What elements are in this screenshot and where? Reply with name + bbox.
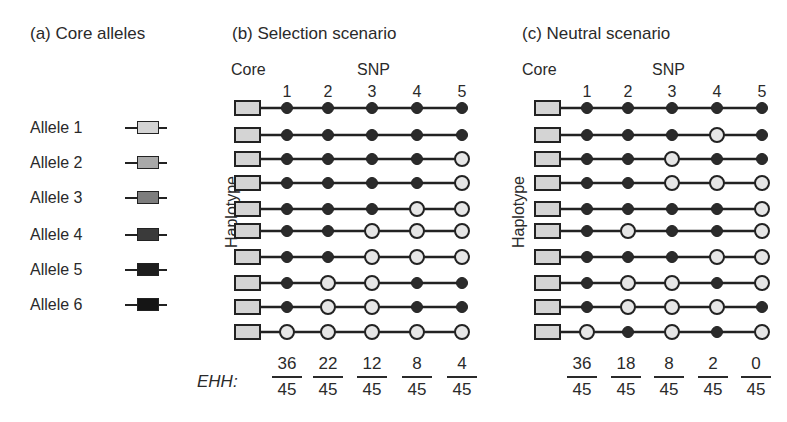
snp-ancestral-allele-icon <box>365 325 379 339</box>
snp-derived-allele-icon <box>582 204 593 215</box>
snp-ancestral-allele-icon <box>755 250 769 264</box>
snp-derived-allele-icon <box>367 130 378 141</box>
ehh-denominator: 45 <box>355 380 389 400</box>
core-allele-box <box>235 224 260 238</box>
snp-derived-allele-icon <box>282 178 293 189</box>
core-allele-box <box>535 202 560 216</box>
snp-derived-allele-icon <box>667 252 678 263</box>
snp-derived-allele-icon <box>457 278 468 289</box>
snp-ancestral-allele-icon <box>365 300 379 314</box>
haplotype-row <box>235 250 469 264</box>
ehh-numerator: 36 <box>565 354 599 374</box>
snp-derived-allele-icon <box>323 154 334 165</box>
ehh-denominator: 45 <box>270 380 304 400</box>
allele-symbol-icon <box>125 263 167 277</box>
panel-b-core-label: Core <box>231 61 266 79</box>
core-allele-box <box>535 176 560 190</box>
snp-derived-allele-icon <box>623 204 634 215</box>
ehh-numerator: 22 <box>311 354 345 374</box>
snp-ancestral-allele-icon <box>321 325 335 339</box>
core-allele-box <box>535 276 560 290</box>
fraction-bar <box>567 376 597 378</box>
snp-derived-allele-icon <box>582 302 593 313</box>
allele-legend-item: Allele 4 <box>30 225 167 245</box>
snp-ancestral-allele-icon <box>755 325 769 339</box>
panel-c-core-label: Core <box>522 61 557 79</box>
ehh-fraction: 045 <box>739 354 773 400</box>
snp-ancestral-allele-icon <box>621 224 635 238</box>
snp-ancestral-allele-icon <box>710 300 724 314</box>
allele-label: Allele 6 <box>30 296 125 314</box>
haplotype-row <box>235 101 468 115</box>
snp-ancestral-allele-icon <box>580 325 594 339</box>
core-allele-box <box>535 325 560 339</box>
panel-c-haplotype-diagram: 12345 <box>525 80 775 345</box>
panel-a-title: (a) Core alleles <box>30 24 145 44</box>
haplotype-row <box>535 176 769 190</box>
allele-legend-item: Allele 6 <box>30 295 167 315</box>
allele-legend-item: Allele 5 <box>30 260 167 280</box>
snp-derived-allele-icon <box>412 154 423 165</box>
allele-legend-item: Allele 1 <box>30 118 167 138</box>
snp-ancestral-allele-icon <box>621 300 635 314</box>
snp-derived-allele-icon <box>623 154 634 165</box>
haplotype-row <box>535 276 769 290</box>
snp-ancestral-allele-icon <box>710 250 724 264</box>
snp-derived-allele-icon <box>282 252 293 263</box>
ehh-fraction: 845 <box>400 354 434 400</box>
allele-legend-item: Allele 3 <box>30 188 167 208</box>
snp-derived-allele-icon <box>712 204 723 215</box>
snp-derived-allele-icon <box>582 103 593 114</box>
snp-derived-allele-icon <box>323 204 334 215</box>
panel-b-snp-label: SNP <box>357 61 390 79</box>
core-allele-box <box>235 176 260 190</box>
snp-derived-allele-icon <box>282 130 293 141</box>
snp-derived-allele-icon <box>282 302 293 313</box>
snp-ancestral-allele-icon <box>365 224 379 238</box>
ehh-numerator: 2 <box>696 354 730 374</box>
core-allele-box <box>235 101 260 115</box>
haplotype-row <box>235 325 469 339</box>
snp-derived-allele-icon <box>457 302 468 313</box>
snp-ancestral-allele-icon <box>365 250 379 264</box>
ehh-numerator: 0 <box>739 354 773 374</box>
snp-derived-allele-icon <box>282 103 293 114</box>
snp-number: 4 <box>413 83 422 100</box>
snp-derived-allele-icon <box>623 252 634 263</box>
snp-derived-allele-icon <box>712 278 723 289</box>
snp-derived-allele-icon <box>582 226 593 237</box>
ehh-fraction: 445 <box>445 354 479 400</box>
fraction-bar <box>272 376 302 378</box>
snp-ancestral-allele-icon <box>755 202 769 216</box>
fraction-bar <box>611 376 641 378</box>
core-allele-box <box>535 101 560 115</box>
snp-derived-allele-icon <box>712 226 723 237</box>
snp-derived-allele-icon <box>667 204 678 215</box>
haplotype-row <box>235 224 469 238</box>
fraction-bar <box>741 376 771 378</box>
haplotype-row <box>535 152 768 166</box>
snp-derived-allele-icon <box>412 302 423 313</box>
haplotype-row <box>535 300 768 314</box>
snp-ancestral-allele-icon <box>321 300 335 314</box>
ehh-fraction: 245 <box>696 354 730 400</box>
snp-derived-allele-icon <box>412 103 423 114</box>
snp-ancestral-allele-icon <box>755 276 769 290</box>
core-allele-box <box>235 250 260 264</box>
snp-number: 1 <box>283 83 292 100</box>
snp-derived-allele-icon <box>667 130 678 141</box>
haplotype-row <box>535 250 769 264</box>
ehh-denominator: 45 <box>445 380 479 400</box>
haplotype-row <box>235 300 468 314</box>
fraction-bar <box>357 376 387 378</box>
ehh-numerator: 12 <box>355 354 389 374</box>
snp-ancestral-allele-icon <box>455 224 469 238</box>
snp-number: 3 <box>368 83 377 100</box>
haplotype-row <box>235 276 468 290</box>
ehh-denominator: 45 <box>696 380 730 400</box>
core-allele-box <box>235 300 260 314</box>
ehh-denominator: 45 <box>739 380 773 400</box>
snp-ancestral-allele-icon <box>280 325 294 339</box>
haplotype-row <box>235 152 469 166</box>
snp-ancestral-allele-icon <box>365 276 379 290</box>
